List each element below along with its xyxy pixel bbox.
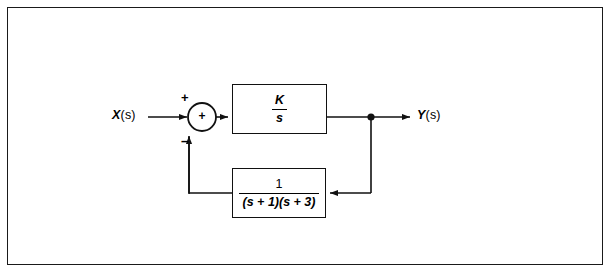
output-signal-label: Y(s) [417,108,441,122]
summing-junction-symbol: + [195,110,209,122]
feedback-denominator: (s + 1)(s + 3) [239,193,320,209]
feedback-numerator: 1 [272,177,287,192]
figure-canvas: + + – X(s) Y(s) K s 1 (s + 1)(s + 3) [0,0,612,278]
output-signal-argument: (s) [426,108,441,122]
input-signal-variable: X [112,108,121,122]
forward-numerator: K [271,93,288,108]
forward-path-block: K s [232,84,327,134]
output-signal-variable: Y [417,108,426,122]
summer-positive-sign: + [181,91,189,104]
summer-negative-sign: – [181,134,189,148]
feedback-transfer-function: 1 (s + 1)(s + 3) [239,177,320,209]
feedback-path-block: 1 (s + 1)(s + 3) [232,168,326,218]
forward-transfer-function: K s [271,93,288,125]
input-signal-label: X(s) [112,108,136,122]
block-diagram-wires [0,0,612,278]
forward-denominator: s [272,109,287,125]
input-signal-argument: (s) [121,108,136,122]
